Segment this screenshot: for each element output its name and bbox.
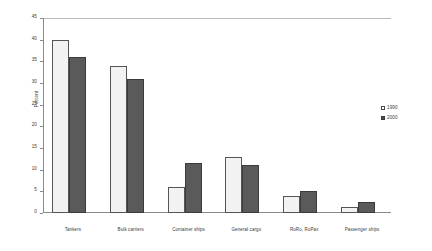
bar-group [160,18,218,213]
y-tick-mark [40,126,43,127]
y-tick-label: 0 [34,209,37,214]
y-axis-title: Percent [32,76,42,122]
y-tick-mark [40,170,43,171]
bars-layer [44,18,391,213]
y-tick-mark [40,40,43,41]
bar-group [102,18,160,213]
y-tick-mark [40,61,43,62]
bar-2000 [69,57,86,213]
x-axis-labels: TankersBulk carriersContainer shipsGener… [44,227,391,239]
y-tick-label: 5 [34,187,37,192]
y-tick-label: 35 [32,57,37,62]
bar-2000 [127,79,144,213]
x-tick-label: Bulk carriers [102,227,160,233]
y-tick-mark [40,148,43,149]
y-tick-label: 20 [32,122,37,127]
bar-group [218,18,276,213]
legend-label-2000: 2000 [387,115,398,121]
legend-item-2000: 2000 [381,114,425,122]
bar-chart: 051015202530354045 Percent TankersBulk c… [0,0,432,251]
x-tick-label: Tankers [44,227,102,233]
y-tick-label: 15 [32,144,37,149]
legend-swatch-2000-icon [381,116,385,120]
bar-group [275,18,333,213]
chart-legend: 1990 2000 [381,104,425,124]
y-tick-label: 40 [32,36,37,41]
y-tick-mark [40,213,43,214]
bar-1990 [283,196,300,213]
bar-group [44,18,102,213]
y-tick-label: 45 [32,14,37,19]
x-tick-label: General cargo [218,227,276,233]
bar-1990 [52,40,69,213]
x-tick-label: RoRo, RoPax [275,227,333,233]
bar-2000 [358,202,375,213]
x-tick-label: Container ships [160,227,218,233]
y-tick-mark [40,191,43,192]
bar-1990 [225,157,242,213]
x-tick-label: Passenger ships [333,227,391,233]
legend-swatch-1990-icon [381,106,385,110]
legend-item-1990: 1990 [381,104,425,112]
bar-1990 [341,207,358,214]
bar-1990 [168,187,185,213]
bar-1990 [110,66,127,213]
legend-label-1990: 1990 [387,105,398,111]
y-tick-mark [40,18,43,19]
y-tick-label: 10 [32,166,37,171]
bar-2000 [242,165,259,213]
bar-2000 [185,163,202,213]
bar-2000 [300,191,317,213]
